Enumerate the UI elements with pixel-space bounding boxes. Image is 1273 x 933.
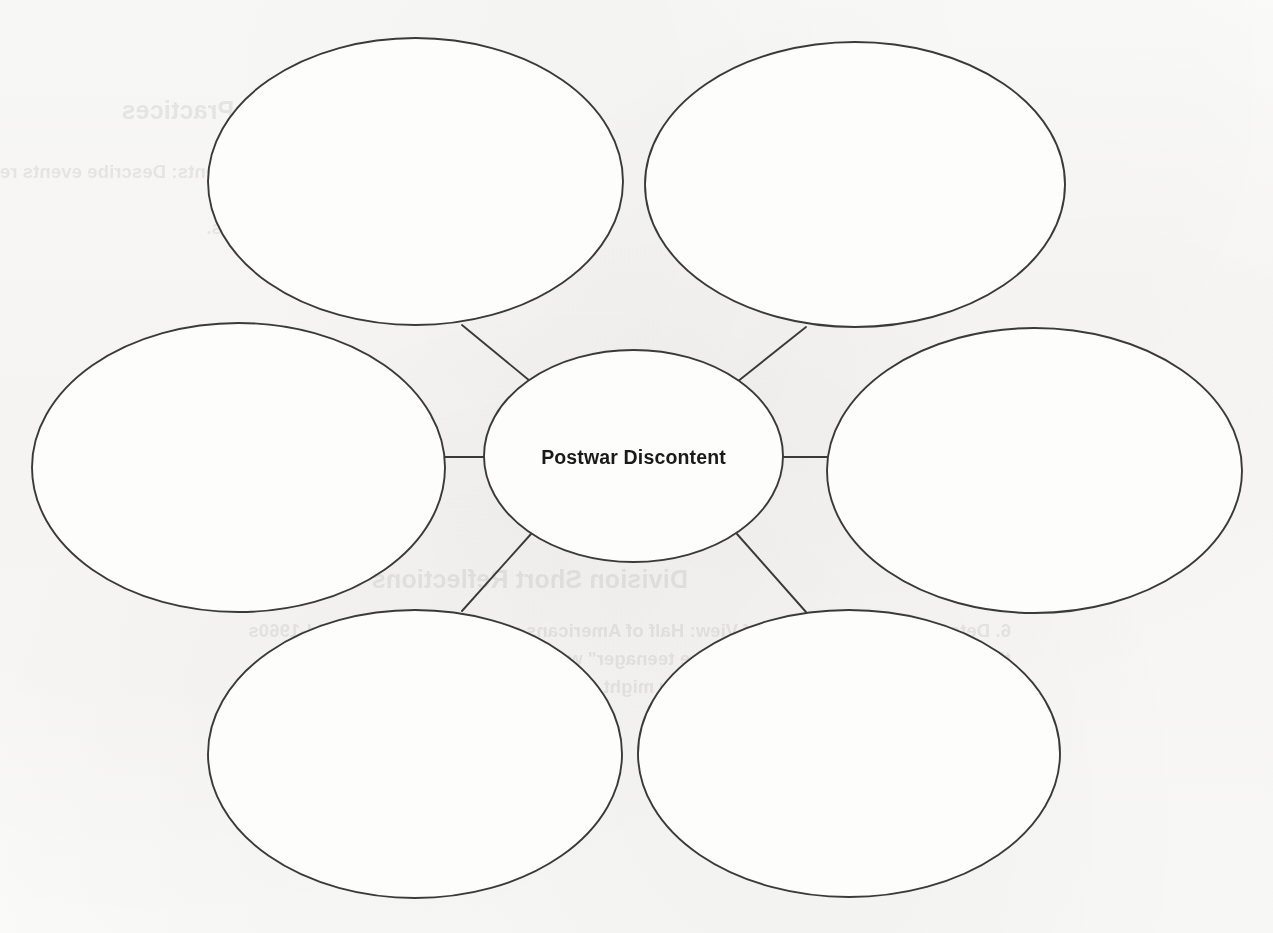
branch-ellipse-bottom-left[interactable]	[208, 610, 622, 898]
branch-ellipse-top-right[interactable]	[645, 42, 1065, 327]
connector-top-left	[462, 325, 530, 381]
branch-ellipse-middle-left[interactable]	[32, 323, 445, 612]
worksheet-page: Structured Communities & Practices 5. An…	[0, 0, 1273, 933]
connector-top-right	[737, 327, 806, 382]
center-topic-label: Postwar Discontent	[541, 446, 726, 469]
branch-ellipse-middle-right[interactable]	[827, 328, 1242, 613]
connector-bottom-left	[462, 534, 531, 611]
branch-ellipse-bottom-right[interactable]	[638, 610, 1060, 897]
branch-ellipse-top-left[interactable]	[208, 38, 623, 325]
connector-bottom-right	[737, 534, 806, 612]
